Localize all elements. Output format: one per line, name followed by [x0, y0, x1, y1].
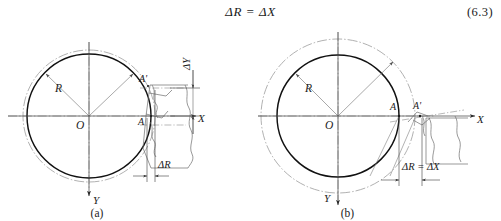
radius-leader-right-a — [89, 74, 133, 116]
equation-row: ΔR = ΔX (6.3) — [0, 4, 501, 30]
axis-y-label-a: Y — [93, 194, 101, 206]
construction-line-left-b — [370, 116, 399, 176]
point-a-prime-label-a: A' — [138, 73, 148, 84]
panel-a-drawing: R O X Y — [0, 30, 250, 221]
axis-x-label-b: X — [476, 113, 485, 125]
workpiece-profile-b — [408, 112, 468, 164]
radius-leader-right-b — [338, 62, 393, 116]
tool-notch-upper-a — [149, 90, 172, 96]
figure-panel-b: R O X Y — [250, 30, 501, 221]
point-a-label-b: A — [389, 101, 397, 112]
workpiece-break-mid-b — [455, 116, 461, 162]
radius-leader-left-a — [46, 74, 89, 116]
point-a-marker-a — [150, 115, 152, 117]
tool-notch-lower-a — [146, 111, 168, 118]
axis-x-label-a: X — [197, 112, 206, 124]
dim-delta-r-label-a: ΔR — [157, 159, 171, 170]
equation-number: (6.3) — [467, 5, 493, 20]
point-a-prime-label-b: A' — [412, 100, 422, 111]
workpiece-outline-left-b — [426, 118, 468, 164]
workpiece-break-right-a — [185, 85, 193, 168]
dim-delta-rx-label-b: ΔR = ΔX — [401, 161, 440, 172]
caption-a: (a) — [0, 207, 222, 219]
dim-delta-y-label-a: ΔY — [181, 57, 192, 71]
point-a-prime-marker-a — [147, 85, 149, 87]
origin-label-a: O — [76, 119, 85, 131]
dim-delta-y-a — [170, 70, 200, 134]
caption-b: (b) — [222, 207, 473, 219]
figure-panel-a: R O X Y — [0, 30, 250, 221]
radius-leader-left-b — [296, 74, 338, 116]
equation-text: ΔR = ΔX — [0, 4, 501, 20]
workpiece-break-inner-b — [429, 118, 434, 164]
workpiece-break-near-b — [422, 116, 425, 136]
radius-label-b: R — [304, 82, 312, 94]
origin-label-b: O — [325, 119, 334, 131]
panel-b-drawing: R O X Y — [250, 30, 501, 221]
point-a-marker-b — [398, 115, 400, 117]
figure-root: ΔR = ΔX (6.3) — [0, 0, 501, 221]
point-a-prime-marker-b — [419, 115, 421, 117]
tool-edge-b — [408, 112, 428, 122]
point-a-label-a: A — [137, 116, 145, 127]
radius-label-a: R — [54, 82, 62, 94]
radius-leaders-a — [46, 74, 133, 116]
axis-y-label-b: Y — [324, 192, 332, 204]
tool-notch-b — [413, 118, 430, 125]
